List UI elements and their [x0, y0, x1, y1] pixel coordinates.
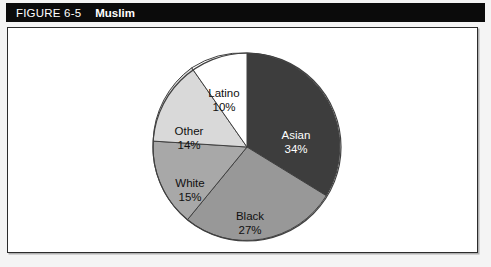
figure-container: FIGURE 6-5 Muslim Latino 10%: [0, 0, 491, 267]
chart-panel: Latino 10% Other 14% White 15% Black 27%…: [7, 27, 478, 253]
figure-number: FIGURE 6-5: [16, 7, 81, 19]
page-title: Muslim: [95, 7, 135, 19]
figure-title-bar: FIGURE 6-5 Muslim: [6, 3, 485, 22]
pie-chart: [149, 49, 345, 245]
pie-chart-svg: [149, 49, 345, 245]
